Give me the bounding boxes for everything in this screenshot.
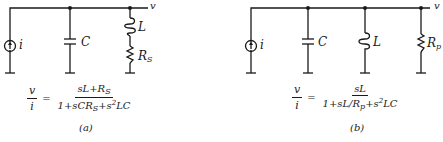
circuit-b-wiring <box>246 8 430 73</box>
inductor-icon <box>359 33 370 51</box>
lhs-fraction-a: v i <box>27 84 37 113</box>
inductor-label-a: L <box>138 21 146 33</box>
resistor-label-a: RS <box>138 50 153 64</box>
circuit-a-wiring <box>5 8 148 73</box>
capacitor-icon <box>302 39 314 44</box>
capacitor-label-a: C <box>81 36 90 48</box>
source-label-a: i <box>19 39 23 51</box>
rhs-fraction-a: sL+RS 1+sCRS+s2LC <box>56 83 133 113</box>
lhs-fraction-b: v i <box>292 83 302 112</box>
caption-a: (a) <box>79 122 93 133</box>
output-label-a: v <box>150 1 156 11</box>
output-label-b: v <box>434 1 440 11</box>
capacitor-icon <box>64 39 76 44</box>
resistor-label-b: Rp <box>427 37 441 51</box>
circuit-diagrams <box>0 0 443 142</box>
inductor-label-b: L <box>373 36 381 48</box>
transfer-equation-a: v i = sL+RS 1+sCRS+s2LC <box>27 83 132 113</box>
inductor-icon <box>125 18 136 36</box>
rhs-fraction-b: sL 1+sL/Rp+s2LC <box>321 83 400 111</box>
source-label-b: i <box>260 39 264 51</box>
caption-b: (b) <box>350 122 364 133</box>
capacitor-label-b: C <box>318 36 327 48</box>
resistor-icon <box>418 34 424 52</box>
resistor-icon <box>127 46 133 63</box>
transfer-equation-b: v i = sL 1+sL/Rp+s2LC <box>292 83 399 112</box>
